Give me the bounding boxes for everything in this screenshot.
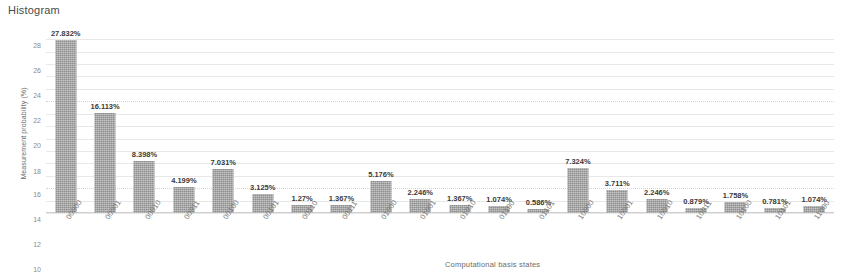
bar[interactable] xyxy=(55,40,76,213)
bar-item[interactable]: 2.246% xyxy=(637,33,676,213)
bar-value-label: 16.113% xyxy=(90,102,119,111)
y-axis-tick: 14 xyxy=(33,216,41,223)
bar-item[interactable]: 2.246% xyxy=(401,33,440,213)
y-axis-tick: 12 xyxy=(33,241,41,248)
bar-item[interactable]: 1.27% xyxy=(282,33,321,213)
y-axis-tick: 20 xyxy=(33,141,41,148)
gridline: 0 xyxy=(46,213,834,214)
bar-value-label: 7.031% xyxy=(211,158,236,167)
page-title: Histogram xyxy=(8,4,60,16)
y-axis-label: Measurement probability (%) xyxy=(20,49,27,219)
histogram-figure: Histogram Measurement probability (%) 02… xyxy=(0,0,842,280)
x-axis-label: Computational basis states xyxy=(445,260,540,269)
y-axis-tick: 26 xyxy=(33,67,41,74)
bar-item[interactable]: 1.367% xyxy=(322,33,361,213)
bar-series: 27.832%16.113%8.398%4.199%7.031%3.125%1.… xyxy=(46,33,834,213)
bar-item[interactable]: 0.879% xyxy=(676,33,715,213)
bar-item[interactable]: 3.711% xyxy=(598,33,637,213)
bar-item[interactable]: 1.074% xyxy=(795,33,834,213)
bar-item[interactable]: 7.324% xyxy=(558,33,597,213)
bar-item[interactable]: 5.176% xyxy=(361,33,400,213)
y-axis-tick: 24 xyxy=(33,92,41,99)
bar-item[interactable]: 1.367% xyxy=(440,33,479,213)
bar-value-label: 8.398% xyxy=(132,150,157,159)
y-axis-tick: 22 xyxy=(33,116,41,123)
y-axis-tick: 10 xyxy=(33,265,41,272)
y-axis-tick: 28 xyxy=(33,42,41,49)
bar-item[interactable]: 27.832% xyxy=(46,33,85,213)
bar-item[interactable]: 1.758% xyxy=(716,33,755,213)
y-axis-tick: 18 xyxy=(33,167,41,174)
bar-value-label: 5.176% xyxy=(368,170,393,179)
bar-value-label: 1.758% xyxy=(723,191,748,200)
x-axis-tick-labels: 0000000001000100001100100001010011000111… xyxy=(46,216,834,262)
bar-item[interactable]: 7.031% xyxy=(204,33,243,213)
bar-value-label: 27.832% xyxy=(51,29,81,38)
bar-item[interactable]: 16.113% xyxy=(85,33,124,213)
bar-item[interactable]: 1.074% xyxy=(479,33,518,213)
bar-value-label: 3.125% xyxy=(250,183,275,192)
bar[interactable] xyxy=(95,113,116,213)
bar-item[interactable]: 0.586% xyxy=(519,33,558,213)
bar-value-label: 2.246% xyxy=(644,188,669,197)
bar-item[interactable]: 3.125% xyxy=(243,33,282,213)
bar-value-label: 7.324% xyxy=(565,157,590,166)
bar-item[interactable]: 0.781% xyxy=(755,33,794,213)
y-axis-tick: 16 xyxy=(33,191,41,198)
plot-area: 0246810121416182022242628 27.832%16.113%… xyxy=(46,33,834,213)
bar-value-label: 3.711% xyxy=(605,179,630,188)
bar-item[interactable]: 8.398% xyxy=(125,33,164,213)
bar-item[interactable]: 4.199% xyxy=(164,33,203,213)
bar-value-label: 2.246% xyxy=(408,188,433,197)
bar-value-label: 4.199% xyxy=(171,176,196,185)
